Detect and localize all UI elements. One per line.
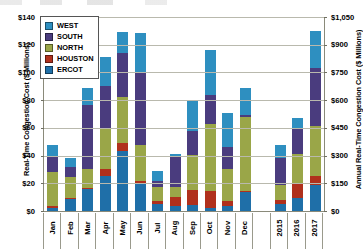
bar-segment-ercot bbox=[170, 206, 181, 211]
bar-segment-west bbox=[135, 33, 146, 72]
x-axis-label-cell: Sep bbox=[184, 213, 201, 249]
bar-segment-ercot bbox=[135, 183, 146, 211]
legend-swatch-icon bbox=[45, 33, 53, 41]
x-axis-tick-label: Jun bbox=[135, 221, 144, 235]
gridline bbox=[44, 128, 324, 129]
x-axis-tick-label: Aug bbox=[170, 221, 179, 236]
stacked-bar[interactable] bbox=[152, 171, 163, 211]
bar-segment-houston bbox=[205, 191, 216, 208]
bar-segment-west bbox=[47, 145, 58, 156]
bar-segment-north bbox=[117, 97, 128, 143]
bar-segment-north bbox=[205, 124, 216, 191]
bar-segment-south bbox=[135, 72, 146, 144]
bar-segment-south bbox=[82, 105, 93, 169]
stacked-bar[interactable] bbox=[82, 88, 93, 211]
y-axis-right-tick-label: $0 bbox=[331, 207, 339, 216]
bar-segment-houston bbox=[187, 190, 198, 205]
bar-segment-west bbox=[100, 57, 111, 86]
y-axis-tick-mark bbox=[41, 211, 44, 212]
y-axis-right-tick-label: $300 bbox=[331, 151, 348, 160]
bar-slot-nov[interactable] bbox=[219, 17, 237, 211]
y-axis-left-tick-label: $80 bbox=[22, 96, 35, 105]
bar-segment-north bbox=[47, 172, 58, 206]
stacked-bar[interactable] bbox=[240, 88, 251, 211]
bar-segment-west bbox=[82, 88, 93, 105]
stacked-bar[interactable] bbox=[292, 118, 303, 211]
x-axis-label-cell: Mar bbox=[79, 213, 96, 249]
y-axis-tick-mark bbox=[324, 156, 327, 157]
stacked-bar[interactable] bbox=[47, 145, 58, 211]
y-axis-left-tick-label: $20 bbox=[22, 179, 35, 188]
stacked-bar[interactable] bbox=[170, 154, 181, 211]
y-axis-tick-mark bbox=[324, 45, 327, 46]
bar-slot-sep[interactable] bbox=[184, 17, 202, 211]
y-axis-tick-mark bbox=[324, 17, 327, 18]
y-axis-right-tick-label: $450 bbox=[331, 123, 348, 132]
bar-segment-west bbox=[222, 113, 233, 147]
x-axis-tick-label: Feb bbox=[65, 221, 74, 235]
legend-swatch-icon bbox=[45, 44, 53, 52]
y-axis-tick-mark bbox=[324, 211, 327, 212]
bar-segment-north bbox=[100, 129, 111, 169]
bar-segment-houston bbox=[100, 169, 111, 177]
bar-segment-houston bbox=[292, 183, 303, 198]
bar-slot-2016[interactable] bbox=[289, 17, 307, 211]
bar-segment-north bbox=[187, 155, 198, 190]
y-axis-right-tick-label: $1,050 bbox=[331, 13, 354, 22]
bar-segment-north bbox=[222, 169, 233, 201]
bar-slot-jun[interactable] bbox=[132, 17, 150, 211]
bar-slot-oct[interactable] bbox=[202, 17, 220, 211]
bar-segment-south bbox=[275, 158, 286, 185]
bar-segment-west bbox=[65, 158, 76, 167]
bar-segment-ercot bbox=[47, 208, 58, 211]
legend-item-ercot[interactable]: ERCOT bbox=[45, 64, 93, 75]
bar-segment-north bbox=[170, 187, 181, 197]
stacked-bar[interactable] bbox=[135, 33, 146, 211]
scan-artifact-band bbox=[0, 0, 363, 5]
x-axis-label-cell: Aug bbox=[166, 213, 183, 249]
bar-segment-ercot bbox=[205, 208, 216, 211]
bar-segment-south bbox=[100, 86, 111, 129]
bar-segment-north bbox=[65, 177, 76, 198]
bar-segment-south bbox=[65, 167, 76, 177]
x-axis-tick-label: Mar bbox=[83, 221, 92, 235]
bar-slot-jul[interactable] bbox=[149, 17, 167, 211]
bar-segment-ercot bbox=[65, 199, 76, 211]
legend-item-label: ERCOT bbox=[57, 65, 83, 74]
bar-slot-aug[interactable] bbox=[167, 17, 185, 211]
legend-item-west[interactable]: WEST bbox=[45, 20, 93, 31]
x-axis-spacer-cell bbox=[253, 213, 270, 249]
bar-segment-ercot bbox=[240, 192, 251, 211]
bar-segment-ercot bbox=[292, 198, 303, 211]
x-axis-label-cell: 2016 bbox=[288, 213, 305, 249]
x-axis-tick-label: Oct bbox=[205, 222, 214, 235]
legend-item-houston[interactable]: HOUSTON bbox=[45, 53, 93, 64]
stacked-bar[interactable] bbox=[275, 145, 286, 211]
stacked-bar[interactable] bbox=[100, 57, 111, 211]
x-axis-tick-label: Sep bbox=[187, 221, 196, 235]
gridline bbox=[44, 156, 324, 157]
bar-slot-2015[interactable] bbox=[272, 17, 290, 211]
stacked-bar[interactable] bbox=[205, 50, 216, 211]
bar-slot-may[interactable] bbox=[114, 17, 132, 211]
y-axis-tick-mark bbox=[324, 100, 327, 101]
y-axis-left: $0$20$40$60$80$100$120$140 bbox=[0, 0, 40, 249]
bar-segment-north bbox=[82, 169, 93, 188]
x-axis-tick-label: Apr bbox=[100, 221, 109, 234]
bar-slot-2017[interactable] bbox=[307, 17, 325, 211]
legend-item-label: WEST bbox=[57, 21, 78, 30]
bar-slot-dec[interactable] bbox=[237, 17, 255, 211]
bar-segment-west bbox=[240, 88, 251, 115]
legend-item-north[interactable]: NORTH bbox=[45, 42, 93, 53]
x-axis-tick-label: 2016 bbox=[292, 220, 301, 237]
legend-item-south[interactable]: SOUTH bbox=[45, 31, 93, 42]
y-axis-tick-mark bbox=[41, 100, 44, 101]
legend: WESTSOUTHNORTHHOUSTONERCOT bbox=[40, 16, 99, 79]
gridline bbox=[44, 183, 324, 184]
y-axis-left-tick-label: $60 bbox=[22, 123, 35, 132]
x-axis: JanFebMarAprMayJunJulAugSepOctNovDec2015… bbox=[43, 213, 323, 249]
bar-segment-south bbox=[187, 131, 198, 155]
legend-item-label: NORTH bbox=[57, 43, 83, 52]
bar-segment-north bbox=[310, 126, 321, 175]
y-axis-tick-mark bbox=[324, 183, 327, 184]
